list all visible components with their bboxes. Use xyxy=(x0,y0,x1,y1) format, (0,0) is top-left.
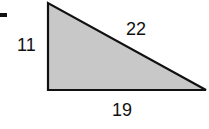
horizontal-leg-label: 19 xyxy=(112,101,132,119)
hypotenuse-label: 22 xyxy=(126,20,146,38)
triangle-figure xyxy=(0,0,209,129)
vertical-leg-label: 11 xyxy=(17,36,36,54)
right-triangle xyxy=(48,3,206,90)
